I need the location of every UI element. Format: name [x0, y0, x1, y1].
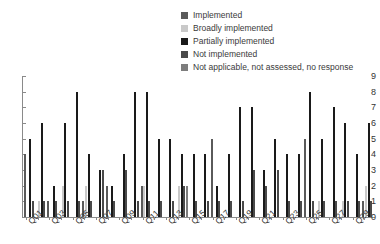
x-axis-tick-mark [84, 217, 85, 220]
x-axis-tick-mark [318, 217, 319, 220]
legend-swatch-icon [181, 64, 188, 71]
plot-area [22, 76, 374, 217]
x-axis-tick-mark [341, 217, 342, 220]
x-axis-tick-mark [131, 217, 132, 220]
x-axis-tick-mark [38, 217, 39, 220]
x-axis-tick-mark [224, 217, 225, 220]
legend-label: Not implemented [193, 48, 257, 61]
bar [211, 139, 213, 217]
bar [304, 139, 306, 217]
x-axis-tick-mark [248, 217, 249, 220]
bar [309, 92, 311, 217]
x-axis-tick-mark [154, 217, 155, 220]
bar-group [362, 76, 375, 217]
bar [253, 170, 255, 217]
legend-label: Partially implemented [193, 35, 274, 48]
legend-item: Partially implemented [181, 35, 353, 48]
x-axis-tick-mark [271, 217, 272, 220]
legend-swatch-icon [181, 38, 188, 45]
legend-item: Not implemented [181, 48, 353, 61]
legend-swatch-icon [181, 25, 188, 32]
legend-label: Not applicable, not assessed, no respons… [193, 61, 353, 74]
legend-label: Broadly implemented [193, 22, 273, 35]
legend-label: Implemented [193, 9, 242, 22]
x-axis-tick-mark [108, 217, 109, 220]
bar [76, 92, 78, 217]
x-axis-tick-mark [201, 217, 202, 220]
bar [146, 92, 148, 217]
legend-swatch-icon [181, 12, 188, 19]
legend-swatch-icon [181, 51, 188, 58]
legend-item: Implemented [181, 9, 353, 22]
legend-item: Broadly implemented [181, 22, 353, 35]
x-axis-tick-mark [61, 217, 62, 220]
x-axis-tick-mark [364, 217, 365, 220]
x-axis-tick-mark [178, 217, 179, 220]
x-axis-tick-mark [294, 217, 295, 220]
bar [24, 154, 26, 217]
legend-item: Not applicable, not assessed, no respons… [181, 61, 353, 74]
chart-container: ImplementedBroadly implementedPartially … [0, 0, 380, 244]
chart-legend: ImplementedBroadly implementedPartially … [181, 9, 353, 74]
bar [277, 170, 279, 217]
bar [134, 92, 136, 217]
bar [47, 201, 49, 217]
